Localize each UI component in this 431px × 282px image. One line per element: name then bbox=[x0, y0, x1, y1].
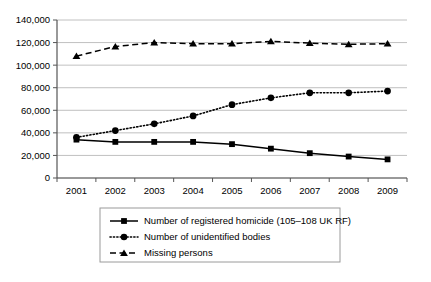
data-point bbox=[112, 139, 118, 145]
chart-legend: Number of registered homicide (105–108 U… bbox=[100, 208, 351, 262]
y-axis-tick-label: 120,000 bbox=[16, 37, 50, 48]
x-axis-tick-label: 2007 bbox=[299, 185, 320, 196]
data-point bbox=[306, 89, 313, 96]
line-chart: 020,00040,00060,00080,000100,000120,0001… bbox=[0, 0, 431, 282]
y-axis-tick-label: 20,000 bbox=[21, 150, 50, 161]
data-point bbox=[112, 127, 119, 134]
data-point bbox=[229, 141, 235, 147]
data-point bbox=[384, 88, 391, 95]
y-axis-tick-label: 140,000 bbox=[16, 14, 50, 25]
data-point bbox=[229, 101, 236, 108]
data-point bbox=[73, 134, 80, 141]
x-axis-tick-label: 2009 bbox=[377, 185, 398, 196]
x-axis-tick-label: 2005 bbox=[221, 185, 242, 196]
data-point bbox=[307, 150, 313, 156]
data-point bbox=[385, 156, 391, 162]
x-axis-tick-label: 2006 bbox=[260, 185, 281, 196]
data-point bbox=[346, 154, 352, 160]
x-axis-tick-label: 2003 bbox=[144, 185, 165, 196]
y-axis-tick-label: 0 bbox=[45, 172, 50, 183]
legend-item-1[interactable]: Number of registered homicide (105–108 U… bbox=[110, 215, 351, 226]
x-axis-tick-label: 2002 bbox=[105, 185, 126, 196]
x-axis-tick-label: 2008 bbox=[338, 185, 359, 196]
legend-marker-circle bbox=[121, 234, 128, 241]
data-point bbox=[190, 139, 196, 145]
data-point bbox=[345, 89, 352, 96]
data-point bbox=[151, 120, 158, 127]
y-axis-tick-label: 40,000 bbox=[21, 127, 50, 138]
y-axis-tick-label: 80,000 bbox=[21, 82, 50, 93]
legend-label: Number of registered homicide (105–108 U… bbox=[144, 215, 351, 226]
data-point bbox=[268, 146, 274, 152]
x-axis-tick-label: 2001 bbox=[66, 185, 87, 196]
legend-marker-square bbox=[121, 218, 127, 224]
chart-canvas: 020,00040,00060,00080,000100,000120,0001… bbox=[0, 0, 431, 282]
x-axis-tick-label: 2004 bbox=[183, 185, 204, 196]
legend-label: Number of unidentified bodies bbox=[144, 231, 270, 242]
y-axis-tick-label: 60,000 bbox=[21, 105, 50, 116]
data-point bbox=[151, 139, 157, 145]
x-axis-tick-labels: 200120022003200420052006200720082009 bbox=[66, 185, 398, 196]
legend-label: Missing persons bbox=[144, 247, 213, 258]
y-axis-tick-label: 100,000 bbox=[16, 60, 50, 71]
data-point bbox=[268, 95, 275, 102]
data-point bbox=[190, 113, 197, 120]
